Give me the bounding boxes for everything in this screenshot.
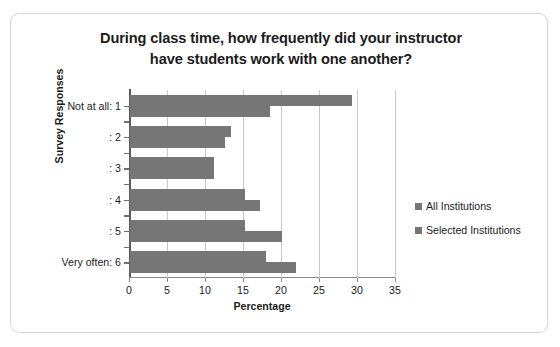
y-axis-tick-label: Very often: 6	[62, 256, 121, 268]
x-axis-tick-label: 20	[275, 284, 287, 296]
x-axis-tick	[395, 278, 396, 282]
gridline	[167, 90, 168, 278]
chart-title-line-2: have students work with one another?	[51, 49, 511, 70]
bar	[130, 262, 296, 273]
chart-legend: All InstitutionsSelected Institutions	[415, 200, 521, 248]
bar	[130, 251, 266, 262]
chart-card: During class time, how frequently did yo…	[10, 13, 548, 333]
y-axis-tick-label: : 3	[109, 162, 121, 174]
y-axis-tick-label: : 5	[109, 225, 121, 237]
gridline	[357, 90, 358, 278]
x-axis-line	[129, 277, 395, 278]
x-axis-tick	[205, 278, 206, 282]
y-axis-tick	[124, 262, 129, 263]
bar-group	[130, 189, 396, 211]
gridline	[281, 90, 282, 278]
chart-title: During class time, how frequently did yo…	[51, 28, 511, 69]
bar-group	[130, 157, 396, 179]
y-axis-tick-label: Not at all: 1	[67, 100, 121, 112]
legend-item[interactable]: All Institutions	[415, 200, 521, 212]
y-axis-minor-tick	[124, 184, 129, 185]
legend-swatch-icon	[415, 203, 422, 210]
bar	[130, 189, 245, 200]
x-axis-tick-label: 0	[126, 284, 132, 296]
legend-label: All Institutions	[426, 200, 491, 212]
bar	[130, 137, 225, 148]
bar-group	[130, 220, 396, 242]
bar	[130, 220, 245, 231]
x-axis-tick-label: 25	[313, 284, 325, 296]
gridline	[319, 90, 320, 278]
y-axis-tick	[124, 137, 129, 138]
bar	[130, 126, 231, 137]
y-axis-tick	[124, 231, 129, 232]
legend-swatch-icon	[415, 227, 422, 234]
legend-label: Selected Institutions	[426, 224, 521, 236]
x-axis-tick-label: 30	[351, 284, 363, 296]
x-axis-tick-label: 10	[199, 284, 211, 296]
y-axis-minor-tick	[124, 121, 129, 122]
gridline	[395, 90, 396, 278]
y-axis-minor-tick	[124, 215, 129, 216]
x-axis-tick	[243, 278, 244, 282]
x-axis-tick	[281, 278, 282, 282]
bar	[130, 231, 282, 242]
legend-item[interactable]: Selected Institutions	[415, 224, 521, 236]
y-axis-tick	[124, 168, 129, 169]
y-axis-tick-label: : 4	[109, 194, 121, 206]
bar-group	[130, 95, 396, 117]
y-axis-title: Survey Responses	[53, 46, 65, 186]
chart-title-line-1: During class time, how frequently did yo…	[51, 28, 511, 49]
x-axis-title: Percentage	[129, 300, 395, 312]
y-axis-line	[129, 89, 131, 278]
bar	[130, 157, 214, 168]
x-axis-tick	[167, 278, 168, 282]
x-axis-tick-label: 5	[164, 284, 170, 296]
x-axis-tick	[357, 278, 358, 282]
x-axis-tick	[319, 278, 320, 282]
bar	[130, 106, 270, 117]
y-axis-tick	[124, 106, 129, 107]
bar	[130, 200, 260, 211]
gridline	[243, 90, 244, 278]
y-axis-minor-tick	[124, 153, 129, 154]
bar-group	[130, 251, 396, 273]
bar	[130, 168, 214, 179]
plot-area: Not at all: 1: 2: 3: 4: 5Very often: 6 0…	[129, 90, 395, 278]
x-axis-tick	[129, 278, 130, 282]
bar	[130, 95, 352, 106]
y-axis-minor-tick	[124, 247, 129, 248]
y-axis-tick-label: : 2	[109, 131, 121, 143]
x-axis-tick-label: 35	[389, 284, 401, 296]
x-axis-tick-label: 15	[237, 284, 249, 296]
y-axis-tick	[124, 200, 129, 201]
bar-group	[130, 126, 396, 148]
gridline	[205, 90, 206, 278]
